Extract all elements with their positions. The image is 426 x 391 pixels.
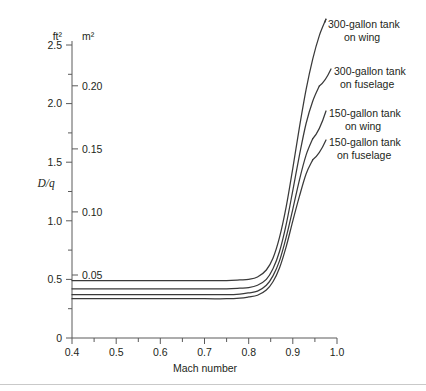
curve-group <box>72 19 326 299</box>
curve-series-2 <box>72 139 313 295</box>
y-tick-label: 2.5 <box>47 39 62 51</box>
y-axis-tick-labels-ft2: 0 0.5 1.0 1.5 2.0 2.5 <box>47 39 62 344</box>
y-tick-label: 1.5 <box>47 156 62 168</box>
series-label-150-wing-line2: on wing <box>345 120 381 132</box>
x-tick-label: 0.4 <box>65 346 80 358</box>
y-axis-tick-labels-m2: 0.05 0.10 0.15 0.20 <box>82 80 103 281</box>
y-axis-m2-ticks <box>72 86 78 275</box>
y-tick-label-m2: 0.15 <box>82 143 103 155</box>
y-tick-label-m2: 0.10 <box>82 206 103 218</box>
x-tick-label: 0.8 <box>241 346 256 358</box>
x-tick-label: 1.0 <box>330 346 345 358</box>
x-tick-label: 0.9 <box>285 346 300 358</box>
chart-figure: ft² m² 0 0.5 1.0 1.5 2.0 2.5 0.05 0.10 0… <box>0 0 426 391</box>
footer-divider <box>0 384 426 385</box>
y-tick-label: 2.0 <box>47 97 62 109</box>
y-tick-label: 0.5 <box>47 273 62 285</box>
y-tick-label-m2: 0.05 <box>82 269 103 281</box>
x-tick-label: 0.7 <box>197 346 212 358</box>
y-axis-minor-ticks <box>68 74 72 308</box>
label-leader-2 <box>313 111 326 139</box>
drag-curve-plot: ft² m² 0 0.5 1.0 1.5 2.0 2.5 0.05 0.10 0… <box>0 0 426 391</box>
label-leader-0 <box>325 19 326 22</box>
label-leader-1 <box>319 69 331 86</box>
y-tick-label: 1.0 <box>47 215 62 227</box>
y-axis-unit-m2: m² <box>82 30 95 42</box>
x-tick-label: 0.6 <box>153 346 168 358</box>
series-label-300-fuselage-line1: 300-gallon tank <box>334 65 407 77</box>
x-tick-label: 0.5 <box>109 346 124 358</box>
curve-series-3 <box>72 160 313 299</box>
series-label-300-fuselage-line2: on fuselage <box>340 78 394 90</box>
series-label-300-wing-line1: 300-gallon tank <box>328 18 401 30</box>
series-label-150-fuselage-line1: 150-gallon tank <box>329 136 402 148</box>
series-label-150-wing-line1: 150-gallon tank <box>329 107 402 119</box>
series-label-300-wing-line2: on wing <box>344 31 380 43</box>
y-tick-label-m2: 0.20 <box>82 80 103 92</box>
series-labels: 300-gallon tank on wing 300-gallon tank … <box>328 18 407 161</box>
y-tick-label: 0 <box>56 332 62 344</box>
series-label-150-fuselage-line2: on fuselage <box>337 149 391 161</box>
y-axis-title: D/q <box>36 177 55 190</box>
x-axis-tick-labels: 0.4 0.5 0.6 0.7 0.8 0.9 1.0 <box>65 346 345 358</box>
x-axis-title: Mach number <box>173 362 238 374</box>
x-axis-major-ticks <box>72 338 337 344</box>
label-leader-3 <box>313 140 326 160</box>
